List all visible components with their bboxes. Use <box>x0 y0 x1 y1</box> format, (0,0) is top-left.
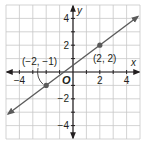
x-tick-label: 4 <box>124 75 130 86</box>
y-tick-label: 2 <box>63 40 69 51</box>
label-leader <box>38 68 44 84</box>
point-label: (2, 2) <box>93 53 116 64</box>
x-axis-label: x <box>130 57 137 68</box>
y-axis-label: y <box>76 5 83 16</box>
y-tick-label: −4 <box>58 120 70 131</box>
y-tick-label: 4 <box>63 13 69 24</box>
data-point <box>44 83 49 88</box>
point-label: (−2, −1) <box>22 56 57 67</box>
x-tick-label: 2 <box>97 75 103 86</box>
coordinate-plane: (−2, −1)(2, 2)−42442−2−4xyO <box>0 0 147 145</box>
origin-label: O <box>62 74 71 86</box>
data-point <box>97 43 102 48</box>
y-tick-label: −2 <box>58 93 70 104</box>
axes <box>7 6 139 138</box>
x-tick-label: −4 <box>14 75 26 86</box>
